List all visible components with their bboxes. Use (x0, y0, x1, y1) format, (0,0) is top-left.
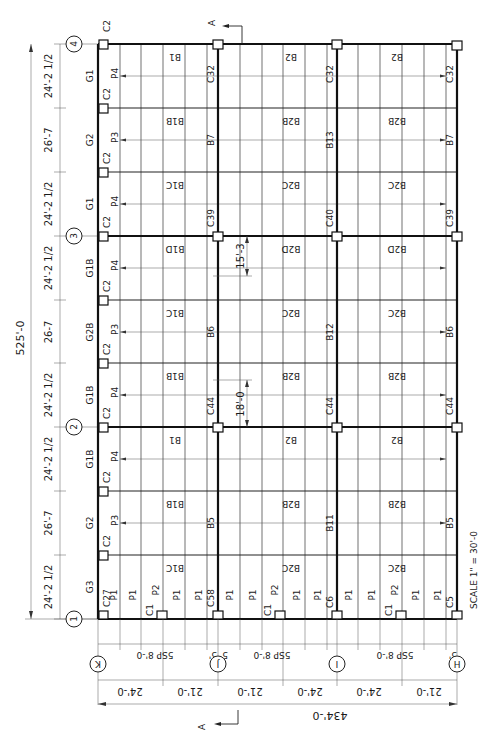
svg-text:B1C: B1C (166, 563, 184, 573)
svg-text:24'-2 1/2: 24'-2 1/2 (43, 373, 54, 418)
svg-text:24'-0: 24'-0 (356, 686, 381, 697)
svg-text:P4: P4 (110, 260, 120, 271)
svg-text:P4: P4 (110, 196, 120, 207)
columns (99, 40, 462, 619)
svg-text:G2: G2 (85, 517, 95, 530)
svg-text:4: 4 (69, 41, 79, 47)
svg-text:P1: P1 (313, 589, 323, 600)
main-grid-lines (98, 44, 457, 619)
svg-text:G2: G2 (85, 134, 95, 147)
svg-text:15'-3: 15'-3 (235, 243, 246, 268)
svg-text:C1: C1 (145, 604, 155, 616)
svg-text:P1: P1 (433, 589, 443, 600)
svg-text:B2: B2 (391, 52, 403, 62)
svg-text:P3: P3 (110, 515, 120, 526)
svg-text:J: J (217, 659, 221, 669)
svg-text:P1: P1 (128, 589, 138, 600)
framing-plan: 525'-0 24'-2 1/2 26'-7 24'-2 1/2 24'-2 1… (0, 0, 497, 734)
svg-text:B2D: B2D (388, 244, 407, 254)
svg-text:B2B: B2B (282, 499, 300, 509)
svg-text:C2: C2 (102, 280, 112, 292)
svg-text:C32: C32 (445, 65, 455, 83)
svg-text:18'-0: 18'-0 (235, 391, 246, 416)
svg-text:B2B: B2B (388, 116, 406, 126)
svg-text:B1B: B1B (166, 116, 184, 126)
svg-text:G1B: G1B (85, 386, 95, 405)
svg-text:26'-7: 26'-7 (43, 127, 54, 152)
svg-text:C6: C6 (325, 596, 335, 608)
svg-text:24'-2 1/2: 24'-2 1/2 (43, 54, 54, 99)
svg-text:C44: C44 (206, 397, 216, 415)
edge-purlin-labels: P4 P3 P4 P4 P3 P4 P4 P3 (110, 68, 120, 526)
svg-text:B2B: B2B (388, 499, 406, 509)
svg-text:P3: P3 (110, 132, 120, 143)
svg-text:P4: P4 (110, 451, 120, 462)
svg-text:P1: P1 (172, 589, 182, 600)
svg-text:P1: P1 (225, 589, 235, 600)
svg-text:26-7: 26-7 (43, 321, 54, 344)
svg-text:P4: P4 (110, 387, 120, 398)
svg-text:B1: B1 (169, 435, 181, 445)
svg-text:21'-0: 21'-0 (416, 686, 441, 697)
svg-text:P1: P1 (109, 589, 119, 600)
svg-text:B2: B2 (285, 52, 297, 62)
svg-text:24'-2 1/2: 24'-2 1/2 (43, 246, 54, 291)
svg-text:2: 2 (69, 424, 79, 430)
bay-width-dimensions: 24'-0 21'-0 21'-0 24'-0 24'-0 21'-0 (98, 680, 457, 697)
svg-text:C1: C1 (263, 604, 273, 616)
svg-text:5SP 8'-0: 5SP 8'-0 (253, 650, 290, 660)
svg-text:P1: P1 (194, 589, 204, 600)
svg-text:G1: G1 (85, 70, 95, 83)
overall-width-dimension: 434'-0 (98, 702, 457, 722)
svg-text:G1: G1 (85, 198, 95, 211)
svg-text:B5: B5 (445, 517, 455, 529)
svg-text:B2C: B2C (388, 308, 406, 318)
line-beam-labels: B7 B6 B5 B13 B12 B11 B7 B6 B5 (206, 131, 455, 532)
svg-text:P3: P3 (110, 324, 120, 335)
svg-text:B2: B2 (285, 435, 297, 445)
svg-text:C39: C39 (445, 209, 455, 227)
bay-dimension-chain: 24'-2 1/2 26'-7 24'-2 1/2 24'-2 1/2 26-7… (43, 44, 66, 619)
section-marker-bottom: A (197, 710, 238, 730)
svg-text:B1B: B1B (166, 499, 184, 509)
svg-text:G2B: G2B (85, 323, 95, 342)
svg-text:3: 3 (69, 233, 79, 239)
svg-text:I: I (336, 659, 339, 669)
svg-text:P1: P1 (411, 589, 421, 600)
svg-text:C44: C44 (445, 397, 455, 415)
svg-text:B2C: B2C (282, 180, 300, 190)
svg-text:C2: C2 (102, 343, 112, 355)
svg-text:B2C: B2C (388, 563, 406, 573)
beam-lines (98, 108, 457, 555)
svg-text:P1: P1 (248, 589, 258, 600)
svg-text:H: H (454, 659, 461, 669)
svg-text:5SP 8'-0: 5SP 8'-0 (376, 650, 413, 660)
svg-text:24'-0: 24'-0 (297, 686, 322, 697)
svg-text:G3: G3 (85, 581, 95, 594)
svg-text:B2B: B2B (282, 116, 300, 126)
svg-text:B2B: B2B (388, 371, 406, 381)
svg-text:P4: P4 (110, 68, 120, 79)
svg-text:B7: B7 (206, 134, 216, 146)
svg-text:G1B: G1B (85, 450, 95, 469)
svg-text:24'-2 1/2: 24'-2 1/2 (43, 182, 54, 227)
purlin-lines (120, 44, 446, 619)
svg-text:24'-2 1/2: 24'-2 1/2 (43, 437, 54, 482)
svg-text:C2: C2 (102, 20, 112, 32)
section-marker-top: A (207, 19, 242, 44)
svg-text:G1B: G1B (85, 259, 95, 278)
bay-beam-labels-ji: B2 B2B B2C B2D B2C B2B B2 B2B B2C (282, 52, 301, 573)
svg-text:26'-7: 26'-7 (43, 510, 54, 535)
bay-beam-labels-kj: B1 B1B B1C B1D B1C B1B B1 B1B B1C (166, 52, 185, 573)
svg-text:B6: B6 (206, 326, 216, 338)
svg-text:21'-0: 21'-0 (237, 686, 262, 697)
svg-text:C1: C1 (384, 604, 394, 616)
svg-text:B11: B11 (325, 514, 335, 532)
svg-text:C44: C44 (325, 397, 335, 415)
svg-text:C39: C39 (206, 209, 216, 227)
svg-text:P1: P1 (292, 589, 302, 600)
scale-note: SCALE 1" = 30'-0 (469, 531, 479, 609)
svg-text:C2: C2 (102, 88, 112, 100)
svg-text:C32: C32 (325, 65, 335, 83)
overall-length-label: 525'-0 (14, 321, 27, 356)
